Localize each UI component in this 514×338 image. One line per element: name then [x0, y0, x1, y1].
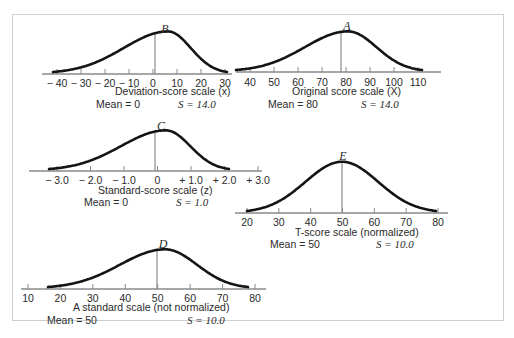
tick-label-b: − 20: [95, 78, 116, 89]
scale-label-b: Deviation-score scale (x): [115, 86, 231, 97]
scale-label-e: T-score scale (normalized): [295, 227, 419, 238]
mean-label-e: Mean = 50: [270, 239, 320, 250]
curve-letter-c: C: [157, 120, 165, 132]
tick-label-d: 80: [249, 293, 261, 304]
curve-letter-b: B: [161, 23, 168, 35]
sd-label-b: S = 14.0: [178, 99, 216, 110]
mean-label-c: Mean = 0: [84, 197, 128, 208]
curve-letter-e: E: [339, 150, 346, 162]
tick-label-b: − 30: [71, 78, 92, 89]
tick-label-b: − 40: [47, 78, 68, 89]
distribution-curve-d: [48, 249, 248, 287]
tick-label-e: 80: [432, 217, 444, 228]
scale-label-c: Standard-score scale (z): [98, 185, 212, 196]
tick-label-c: + 3.0: [246, 175, 270, 186]
tick-label-e: 20: [241, 217, 253, 228]
sd-label-e: S = 10.0: [376, 239, 414, 250]
scale-label-d: A standard scale (not normalized): [73, 302, 229, 313]
tick-label-c: − 3.0: [45, 175, 69, 186]
curve-letter-d: D: [159, 238, 168, 250]
distribution-curve-b: [53, 31, 227, 72]
tick-label-d: 10: [22, 293, 34, 304]
tick-label-c: + 2.0: [213, 175, 237, 186]
tick-label-a: 40: [244, 77, 256, 88]
curve-letter-a: A: [343, 20, 350, 32]
mean-label-a: Mean = 80: [268, 99, 318, 110]
scale-label-a: Original score scale (X): [292, 86, 401, 97]
mean-label-b: Mean = 0: [96, 99, 140, 110]
tick-label-e: 30: [273, 217, 285, 228]
distribution-curve-a: [236, 31, 422, 70]
tick-label-a: 50: [268, 77, 280, 88]
tick-label-a: 110: [410, 77, 427, 88]
tick-label-d: 20: [55, 293, 67, 304]
distribution-curves-canvas: [0, 0, 514, 338]
mean-label-d: Mean = 50: [47, 315, 97, 326]
sd-label-a: S = 14.0: [361, 99, 399, 110]
sd-label-d: S = 10.0: [187, 315, 225, 326]
distribution-curve-c: [49, 130, 229, 169]
sd-label-c: S = 1.0: [176, 197, 208, 208]
